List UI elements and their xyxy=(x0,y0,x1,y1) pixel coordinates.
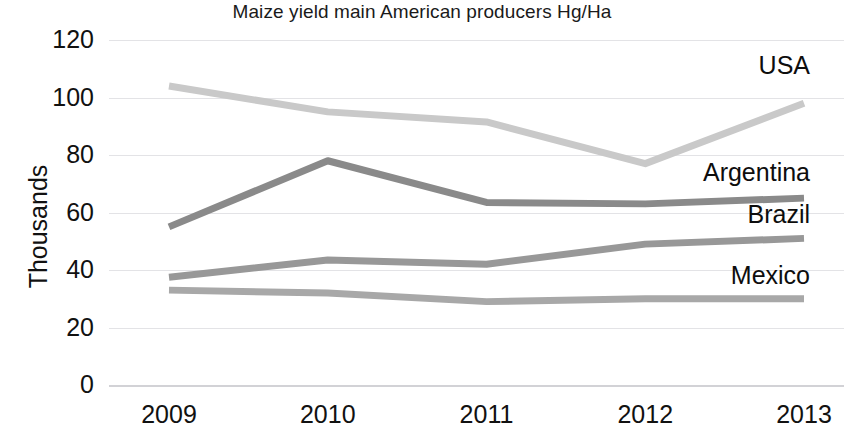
y-axis-tick-label: 120 xyxy=(32,27,94,52)
y-axis-tick-label: 80 xyxy=(32,142,94,167)
series-label-usa: USA xyxy=(759,51,810,80)
x-axis-tick-label: 2010 xyxy=(300,400,356,429)
y-axis-tick-label: 20 xyxy=(32,315,94,340)
y-axis-tick-labels: 020406080100120 xyxy=(32,0,94,446)
series-label-mexico: Mexico xyxy=(731,261,810,290)
chart-title: Maize yield main American producers Hg/H… xyxy=(0,1,844,23)
chart-container: Maize yield main American producers Hg/H… xyxy=(0,0,844,446)
x-axis-tick-label: 2011 xyxy=(460,400,514,429)
y-axis-tick-label: 40 xyxy=(32,257,94,282)
series-line-brazil xyxy=(169,238,804,277)
series-label-brazil: Brazil xyxy=(747,200,810,229)
y-axis-tick-label: 100 xyxy=(32,85,94,110)
x-axis-tick-label: 2012 xyxy=(617,400,673,429)
series-line-usa xyxy=(169,86,804,164)
y-axis-tick-label: 60 xyxy=(32,200,94,225)
series-line-mexico xyxy=(169,290,804,302)
series-label-argentina: Argentina xyxy=(703,158,810,187)
y-axis-tick-label: 0 xyxy=(32,372,94,397)
plot-area xyxy=(109,40,844,398)
series-lines xyxy=(109,40,844,398)
x-axis-tick-label: 2009 xyxy=(141,400,197,429)
x-axis-tick-label: 2013 xyxy=(776,400,832,429)
